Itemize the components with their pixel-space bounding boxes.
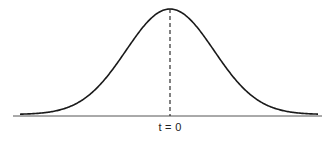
gaussian-curve (20, 9, 318, 114)
center-label: t = 0 (0, 121, 332, 133)
